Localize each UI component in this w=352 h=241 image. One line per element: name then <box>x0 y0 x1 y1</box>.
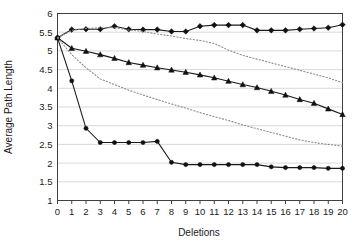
data-point <box>326 166 330 170</box>
data-point <box>312 165 316 169</box>
data-point <box>297 26 303 32</box>
x-tick-label: 3 <box>98 206 103 217</box>
average-path-length-chart: 11.522.533.544.555.56 012345678910111213… <box>0 0 352 241</box>
data-point <box>126 26 132 32</box>
x-tick-label: 10 <box>195 206 206 217</box>
y-tick-label: 1.5 <box>39 176 52 187</box>
data-point <box>269 165 273 169</box>
x-axis-title: Deletions <box>178 227 220 238</box>
data-point <box>311 26 317 32</box>
x-tick-label: 7 <box>155 206 160 217</box>
data-point <box>198 163 202 167</box>
data-point <box>298 165 302 169</box>
x-tick-label: 5 <box>126 206 131 217</box>
x-tick-label: 14 <box>252 206 263 217</box>
y-tick-label: 1 <box>47 195 52 206</box>
data-point <box>283 165 287 169</box>
data-point <box>255 163 259 167</box>
series-diamond-solid <box>55 22 346 41</box>
data-point <box>226 163 230 167</box>
x-tick-label: 2 <box>83 206 88 217</box>
x-tick-label: 19 <box>323 206 334 217</box>
x-tick-label: 13 <box>237 206 248 217</box>
data-point <box>183 29 189 35</box>
data-point <box>83 26 89 32</box>
data-point <box>169 160 173 164</box>
y-tick-label: 5.5 <box>39 27 52 38</box>
x-tick-label: 15 <box>266 206 277 217</box>
x-tick-label: 9 <box>183 206 188 217</box>
x-tick-label: 18 <box>309 206 320 217</box>
data-point <box>212 163 216 167</box>
x-tick-label: 20 <box>337 206 348 217</box>
data-point <box>325 25 331 31</box>
data-point <box>340 22 346 28</box>
x-tick-label: 16 <box>280 206 291 217</box>
data-series <box>55 22 346 171</box>
data-point <box>98 140 102 144</box>
y-tick-label: 3 <box>47 120 52 131</box>
data-point <box>340 166 344 170</box>
data-point <box>240 22 246 28</box>
x-tick-label: 6 <box>140 206 145 217</box>
x-tickmarks <box>58 201 343 205</box>
y-tick-label: 5 <box>47 45 52 56</box>
data-point <box>70 79 74 83</box>
y-tick-label: 6 <box>47 8 52 19</box>
data-point <box>127 140 131 144</box>
x-tick-label: 0 <box>55 206 60 217</box>
x-tick-label: 1 <box>69 206 74 217</box>
x-tick-label: 17 <box>294 206 305 217</box>
data-point <box>155 139 159 143</box>
chart-page: 11.522.533.544.555.56 012345678910111213… <box>0 0 352 241</box>
data-point <box>141 140 145 144</box>
y-axis-title: Average Path Length <box>3 60 14 154</box>
data-point <box>112 140 116 144</box>
y-tick-label: 2 <box>47 158 52 169</box>
y-tick-label: 3.5 <box>39 101 52 112</box>
x-tick-label: 8 <box>169 206 174 217</box>
y-tick-label: 4 <box>47 83 52 94</box>
data-point <box>226 22 232 28</box>
x-tick-label: 12 <box>223 206 234 217</box>
series-triangle-solid <box>55 35 346 117</box>
x-tick-label: 4 <box>112 206 117 217</box>
data-point <box>211 22 217 28</box>
x-tick-labels: 01234567891011121314151617181920 <box>55 206 348 217</box>
data-point <box>84 126 88 130</box>
y-tick-label: 2.5 <box>39 139 52 150</box>
x-tick-label: 11 <box>209 206 219 217</box>
data-point <box>241 163 245 167</box>
data-point <box>154 27 160 33</box>
data-point <box>197 23 203 29</box>
data-point <box>184 163 188 167</box>
y-tick-labels: 11.522.533.544.555.56 <box>39 8 52 206</box>
y-tick-label: 4.5 <box>39 64 52 75</box>
data-point <box>69 45 75 50</box>
data-point <box>169 29 175 35</box>
